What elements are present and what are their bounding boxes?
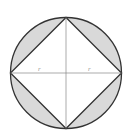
inscribed-square-diagram: r r xyxy=(0,0,132,140)
radius-label-right: r xyxy=(88,65,91,73)
radius-label-left: r xyxy=(38,65,41,73)
